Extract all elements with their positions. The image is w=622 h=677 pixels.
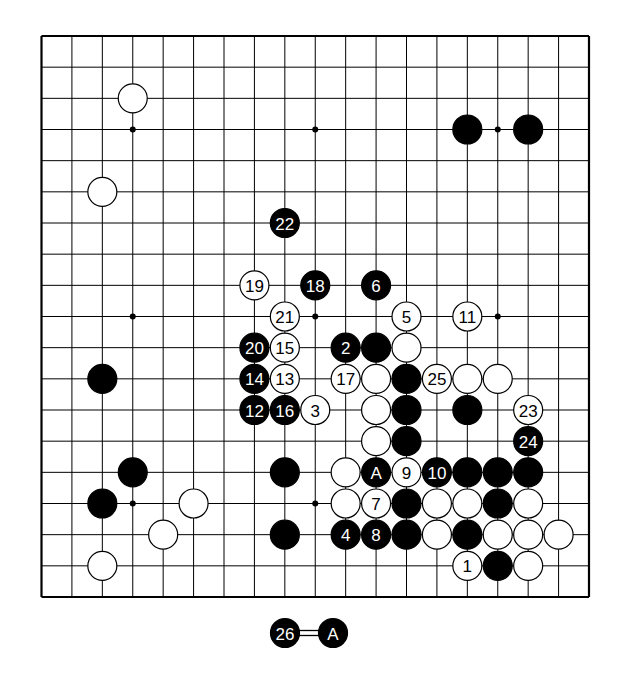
- stone: 6: [362, 271, 391, 300]
- star-point: [130, 314, 136, 320]
- stone: [453, 396, 482, 425]
- move-number: 12: [245, 402, 264, 421]
- stone: 23: [514, 396, 543, 425]
- move-number: 4: [341, 526, 350, 545]
- move-number: 24: [519, 433, 538, 452]
- black-stone-icon: [453, 115, 482, 144]
- white-stone-icon: [483, 364, 512, 393]
- stone: [88, 489, 117, 518]
- stone: 20: [240, 333, 269, 362]
- black-stone-icon: [453, 458, 482, 487]
- white-stone-icon: [514, 489, 543, 518]
- stone: [514, 115, 543, 144]
- move-number: 19: [245, 277, 264, 296]
- caption-stone-right: A: [319, 619, 348, 648]
- stone: [270, 458, 299, 487]
- stone: [453, 489, 482, 518]
- stone: [514, 520, 543, 549]
- move-number: 18: [306, 277, 325, 296]
- stone: [392, 333, 421, 362]
- move-number: A: [327, 625, 339, 644]
- black-stone-icon: [362, 333, 391, 362]
- go-board: 2219186215112015214131725121632324A91074…: [0, 0, 622, 677]
- stone: 3: [301, 396, 330, 425]
- stone: 10: [422, 458, 451, 487]
- move-number: 16: [275, 402, 294, 421]
- stone: [362, 427, 391, 456]
- stone: 11: [453, 302, 482, 331]
- stone: 7: [362, 489, 391, 518]
- move-number: 8: [371, 526, 380, 545]
- white-stone-icon: [362, 427, 391, 456]
- stone: [483, 551, 512, 580]
- stone: A: [362, 458, 391, 487]
- stone: [392, 489, 421, 518]
- stone: [149, 520, 178, 549]
- stone: [331, 458, 360, 487]
- caption-stone-left: 26: [271, 619, 300, 648]
- star-point: [495, 314, 501, 320]
- white-stone-icon: [88, 551, 117, 580]
- white-stone-icon: [483, 520, 512, 549]
- stone: [514, 458, 543, 487]
- stone: [514, 489, 543, 518]
- stone: [514, 551, 543, 580]
- black-stone-icon: [453, 396, 482, 425]
- star-point: [312, 314, 318, 320]
- black-stone-icon: [118, 458, 147, 487]
- white-stone-icon: [514, 551, 543, 580]
- stones-layer: 2219186215112015214131725121632324A91074…: [88, 84, 573, 580]
- stone: 4: [331, 520, 360, 549]
- black-stone-icon: [88, 489, 117, 518]
- white-stone-icon: [118, 84, 147, 113]
- white-stone-icon: [392, 333, 421, 362]
- stone: [362, 333, 391, 362]
- white-stone-icon: [179, 489, 208, 518]
- white-stone-icon: [362, 364, 391, 393]
- black-stone-icon: [453, 520, 482, 549]
- stone: [483, 489, 512, 518]
- stone: 16: [270, 396, 299, 425]
- stone: [88, 177, 117, 206]
- stone: 9: [392, 458, 421, 487]
- white-stone-icon: [422, 520, 451, 549]
- stone: 18: [301, 271, 330, 300]
- stone: 13: [270, 364, 299, 393]
- stone: [88, 364, 117, 393]
- stone: [88, 551, 117, 580]
- black-stone-icon: [392, 427, 421, 456]
- star-point: [130, 501, 136, 507]
- move-number: 21: [275, 308, 294, 327]
- stone: [483, 458, 512, 487]
- move-number: 6: [371, 277, 380, 296]
- stone: [453, 520, 482, 549]
- stone: 15: [270, 333, 299, 362]
- white-stone-icon: [362, 396, 391, 425]
- stone: [453, 364, 482, 393]
- black-stone-icon: [483, 458, 512, 487]
- move-number: 3: [311, 402, 320, 421]
- star-point: [312, 127, 318, 133]
- stone: [483, 520, 512, 549]
- move-number: 10: [427, 464, 446, 483]
- stone: 8: [362, 520, 391, 549]
- stone: [362, 364, 391, 393]
- stone: [422, 520, 451, 549]
- stone: [118, 458, 147, 487]
- move-number: 2: [341, 339, 350, 358]
- white-stone-icon: [149, 520, 178, 549]
- move-number: 25: [427, 370, 446, 389]
- stone: [453, 115, 482, 144]
- move-number: 26: [276, 625, 295, 644]
- stone: [392, 364, 421, 393]
- move-number: 17: [336, 370, 355, 389]
- stone: [453, 458, 482, 487]
- move-number: 11: [459, 308, 477, 327]
- move-number: 5: [402, 308, 411, 327]
- star-point: [130, 127, 136, 133]
- stone: 12: [240, 396, 269, 425]
- stone: 25: [422, 364, 451, 393]
- black-stone-icon: [514, 115, 543, 144]
- move-number: 9: [402, 464, 411, 483]
- move-number: 22: [275, 215, 294, 234]
